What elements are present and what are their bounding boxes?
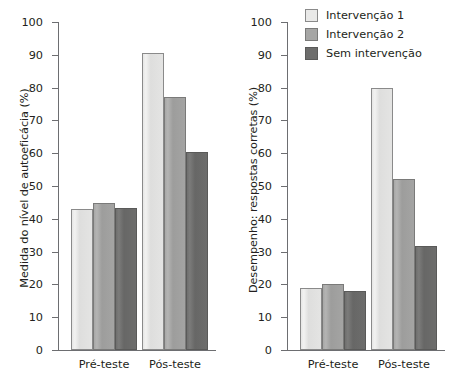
- y-axis-tick-label: 20: [258, 278, 272, 291]
- legend-item-label: Sem intervenção: [326, 47, 422, 60]
- bar: [393, 179, 415, 350]
- y-axis-line-left: [58, 22, 59, 350]
- y-axis-tick-label: 90: [29, 48, 43, 61]
- y-axis-tick-label: 100: [250, 16, 272, 29]
- y-axis-tick: 60: [281, 153, 287, 154]
- legend-item-label: Intervenção 2: [326, 28, 404, 41]
- y-axis-tick: 90: [52, 55, 58, 56]
- y-axis-tick: 40: [281, 219, 287, 220]
- y-axis-tick-label: 10: [29, 311, 43, 324]
- y-axis-tick-label: 100: [21, 16, 43, 29]
- x-axis-group-label: Pré-teste: [79, 358, 130, 371]
- y-axis-tick: 70: [52, 120, 58, 121]
- x-axis-line-left: [58, 350, 216, 351]
- y-axis-tick: 30: [52, 252, 58, 253]
- y-axis-tick: 80: [281, 88, 287, 89]
- y-axis-tick: 80: [52, 88, 58, 89]
- legend-item-label: Intervenção 1: [326, 9, 404, 22]
- bar: [115, 208, 137, 350]
- y-axis-tick: 20: [52, 284, 58, 285]
- legend-item: Intervenção 2: [305, 25, 455, 44]
- bar: [415, 246, 437, 350]
- y-axis-tick: 50: [52, 186, 58, 187]
- y-axis-line-right: [287, 22, 288, 350]
- x-axis-group-label: Pós-teste: [378, 358, 430, 371]
- bar: [186, 152, 208, 350]
- legend-swatch-icon: [305, 47, 318, 60]
- legend-item: Intervenção 1: [305, 6, 455, 25]
- bar: [371, 88, 393, 350]
- y-axis-tick-label: 70: [258, 114, 272, 127]
- y-axis-tick: 20: [281, 284, 287, 285]
- y-axis-tick: 60: [52, 153, 58, 154]
- x-axis-group-label: Pós-teste: [149, 358, 201, 371]
- chart-panel-right: Desempenho: respostas corretas (%) 01020…: [229, 0, 458, 387]
- y-axis-tick-label: 80: [258, 81, 272, 94]
- y-axis-tick: 0: [52, 350, 58, 351]
- legend-item: Sem intervenção: [305, 44, 455, 63]
- y-axis-tick-label: 90: [258, 48, 272, 61]
- bar: [142, 53, 164, 350]
- legend-swatch-icon: [305, 9, 318, 22]
- y-axis-tick-label: 50: [258, 180, 272, 193]
- y-axis-tick-label: 40: [29, 212, 43, 225]
- bar: [344, 291, 366, 350]
- y-axis-tick-label: 30: [258, 245, 272, 258]
- x-axis-line-right: [287, 350, 445, 351]
- y-axis-tick-label: 40: [258, 212, 272, 225]
- y-axis-tick: 40: [52, 219, 58, 220]
- y-axis-tick: 10: [52, 317, 58, 318]
- y-axis-tick: 10: [281, 317, 287, 318]
- y-axis-tick: 100: [281, 22, 287, 23]
- chart-legend: Intervenção 1Intervenção 2Sem intervençã…: [305, 6, 455, 63]
- legend-swatch-icon: [305, 28, 318, 41]
- bar: [300, 288, 322, 350]
- y-axis-tick: 90: [281, 55, 287, 56]
- y-axis-tick: 100: [52, 22, 58, 23]
- bar: [322, 284, 344, 350]
- bar-chart-figure: Medida do nível de autoeficácia (%) 0102…: [0, 0, 458, 387]
- y-axis-tick: 70: [281, 120, 287, 121]
- bar: [164, 97, 186, 350]
- bar: [71, 209, 93, 350]
- y-axis-tick-label: 30: [29, 245, 43, 258]
- plot-area-left: 0102030405060708090100Pré-testePós-teste: [58, 22, 216, 350]
- y-axis-tick: 50: [281, 186, 287, 187]
- y-axis-tick-label: 0: [265, 344, 272, 357]
- bar: [93, 203, 115, 350]
- chart-panel-left: Medida do nível de autoeficácia (%) 0102…: [0, 0, 229, 387]
- y-axis-tick-label: 10: [258, 311, 272, 324]
- y-axis-tick-label: 60: [258, 147, 272, 160]
- y-axis-tick-label: 80: [29, 81, 43, 94]
- y-axis-tick: 30: [281, 252, 287, 253]
- y-axis-tick-label: 50: [29, 180, 43, 193]
- y-axis-tick-label: 20: [29, 278, 43, 291]
- y-axis-tick-label: 70: [29, 114, 43, 127]
- y-axis-tick-label: 0: [36, 344, 43, 357]
- y-axis-tick-label: 60: [29, 147, 43, 160]
- x-axis-group-label: Pré-teste: [308, 358, 359, 371]
- y-axis-tick: 0: [281, 350, 287, 351]
- plot-area-right: 0102030405060708090100Pré-testePós-teste: [287, 22, 445, 350]
